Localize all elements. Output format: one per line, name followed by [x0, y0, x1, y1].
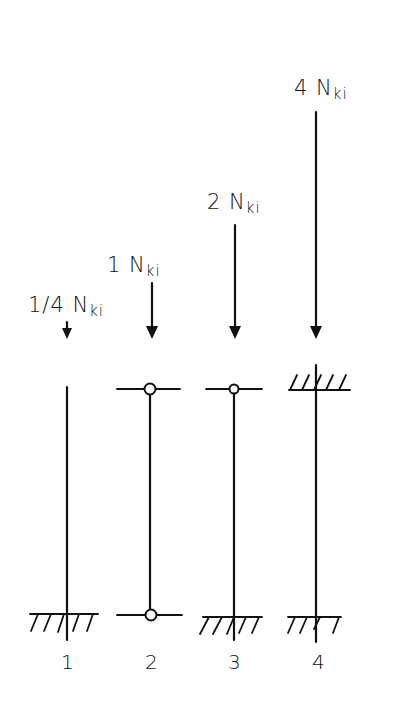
load-label-2: 1 Nki	[107, 253, 161, 280]
diagram-canvas	[0, 0, 401, 718]
load-label-4-main: 4 N	[294, 76, 333, 100]
load-label-1: 1/4 Nki	[28, 293, 104, 320]
load-label-2-main: 1 N	[107, 253, 146, 277]
load-label-2-sub: ki	[146, 262, 161, 280]
load-label-4-sub: ki	[333, 85, 348, 103]
fixed-support-top-4	[289, 375, 350, 390]
fixed-support-bottom-3	[200, 617, 262, 634]
column-number-4: 4	[312, 650, 326, 674]
load-label-4: 4 Nki	[294, 76, 348, 103]
load-label-3-sub: ki	[246, 199, 261, 217]
column-number-3: 3	[228, 650, 242, 674]
hinge-bottom-2	[146, 610, 157, 621]
column-3	[200, 225, 262, 640]
column-1	[30, 322, 98, 640]
column-number-1: 1	[61, 650, 75, 674]
load-arrow-3	[229, 225, 241, 339]
load-arrow-2	[146, 283, 158, 339]
load-arrow-4	[310, 112, 322, 339]
load-label-3: 2 Nki	[207, 190, 261, 217]
load-label-1-sub: ki	[89, 302, 104, 320]
load-arrow-1	[62, 322, 72, 339]
column-2	[117, 283, 182, 621]
column-4	[288, 112, 350, 642]
fixed-support-bottom-1	[30, 614, 98, 632]
fixed-support-bottom-4	[288, 617, 341, 633]
hinge-top-2	[145, 384, 156, 395]
hinge-top-3	[230, 385, 239, 394]
load-label-3-main: 2 N	[207, 190, 246, 214]
column-number-2: 2	[145, 650, 159, 674]
load-label-1-main: 1/4 N	[28, 293, 89, 317]
